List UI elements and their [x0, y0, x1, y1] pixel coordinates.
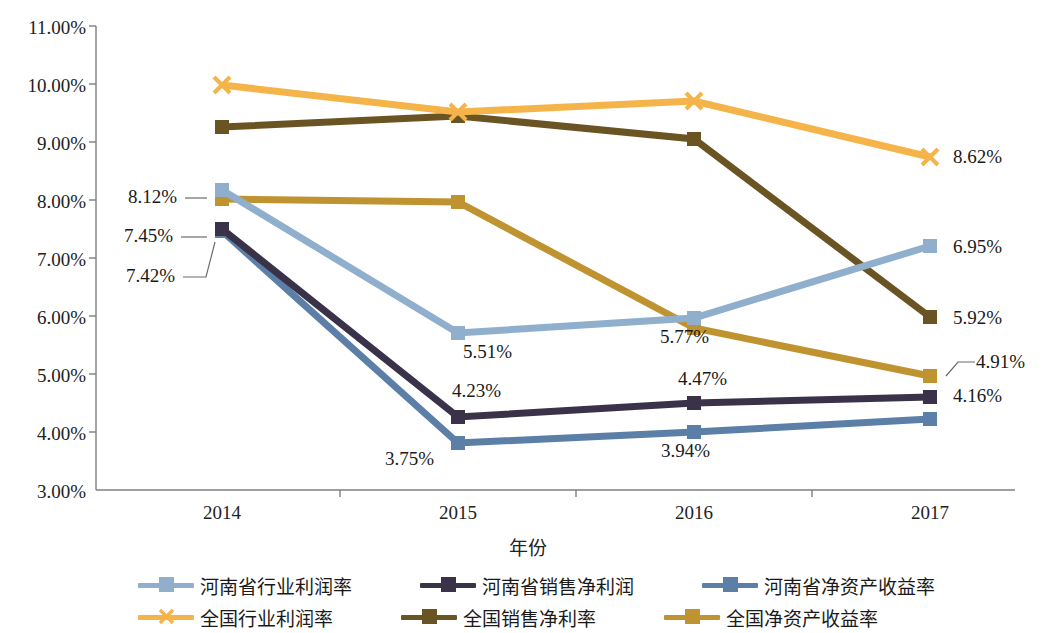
legend-swatch-line-marker [664, 606, 720, 628]
legend-item-national-industry-profit-rate[interactable]: 全国行业利润率 [138, 602, 333, 632]
data-label: 5.77% [660, 326, 709, 348]
legend-item-national-sales-net-margin[interactable]: 全国销售净利率 [401, 602, 596, 632]
data-label: 4.91% [976, 351, 1025, 373]
data-label: 7.45% [124, 225, 173, 247]
series-line-henan-roe [215, 224, 937, 450]
data-label: 8.12% [128, 186, 177, 208]
legend-item-henan-sales-net-profit[interactable]: 河南省销售净利润 [420, 570, 634, 600]
legend-label: 全国行业利润率 [200, 604, 333, 631]
legend-label: 河南省行业利润率 [200, 572, 352, 599]
series-line-national-sales-net-margin [215, 109, 937, 324]
data-label: 5.51% [463, 341, 512, 363]
legend-swatch-line-marker [138, 574, 194, 596]
legend-item-henan-roe[interactable]: 河南省净资产收益率 [702, 570, 935, 600]
legend-label: 河南省销售净利润 [482, 572, 634, 599]
legend-swatch-line-marker [401, 606, 457, 628]
legend-item-henan-industry-profit-rate[interactable]: 河南省行业利润率 [138, 570, 352, 600]
data-label: 3.75% [385, 448, 434, 470]
data-label: 5.92% [953, 307, 1002, 329]
data-label: 4.23% [452, 380, 501, 402]
data-label: 4.16% [953, 385, 1002, 407]
leader-line-gold [946, 362, 975, 376]
legend-item-national-roe[interactable]: 全国净资产收益率 [664, 602, 878, 632]
series-line-national-roe [215, 192, 937, 383]
data-label: 7.42% [126, 265, 175, 287]
legend-label: 河南省净资产收益率 [764, 572, 935, 599]
legend-swatch-line-marker-x [138, 606, 194, 628]
legend-swatch-line-marker [420, 574, 476, 596]
leader-lines [181, 198, 215, 277]
data-label: 6.95% [953, 236, 1002, 258]
data-label: 3.94% [661, 440, 710, 462]
x-marker-icon [158, 608, 175, 625]
data-label: 8.62% [953, 146, 1002, 168]
plot-area [0, 0, 1056, 633]
legend-swatch-line-marker [702, 574, 758, 596]
chart-legend: 河南省行业利润率 河南省销售净利润 河南省净资产收益率 [0, 566, 1056, 633]
line-chart: 11.00% 10.00% 9.00% 8.00% 7.00% 6.00% 5.… [0, 0, 1056, 633]
data-label: 4.47% [678, 368, 727, 390]
legend-label: 全国销售净利率 [463, 604, 596, 631]
legend-label: 全国净资产收益率 [726, 604, 878, 631]
